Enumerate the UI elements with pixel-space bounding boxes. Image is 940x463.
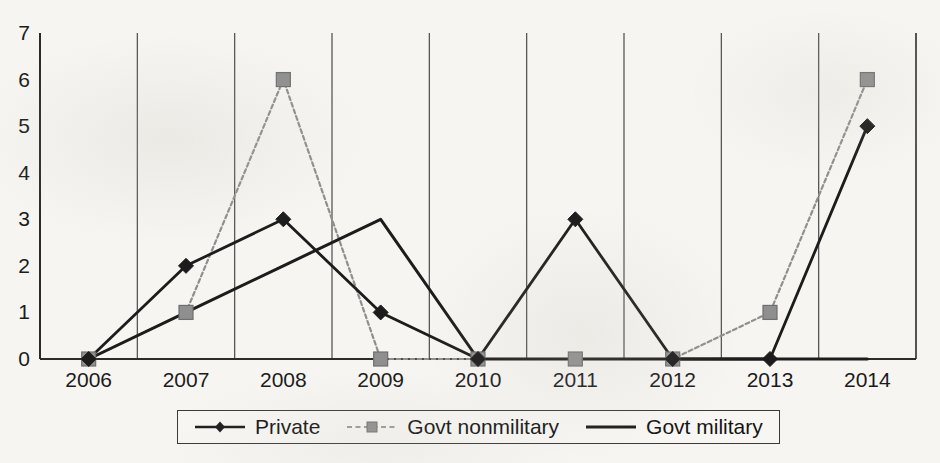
series-line [89, 80, 868, 359]
data-point-marker [276, 73, 290, 87]
y-tick-label: 5 [18, 114, 30, 137]
series-line [89, 126, 868, 359]
line-chart: 01234567 2006200720082009201020112012201… [0, 0, 940, 463]
data-point-marker [763, 352, 778, 367]
legend-label-govt-nonmilitary: Govt nonmilitary [407, 416, 559, 437]
series-line [89, 219, 868, 359]
y-tick-label: 6 [18, 68, 30, 91]
data-point-marker [860, 73, 874, 87]
legend-item-private: Private [194, 416, 320, 437]
data-point-marker [179, 305, 193, 319]
y-tick-label: 0 [18, 347, 30, 370]
x-tick-label: 2006 [65, 368, 112, 391]
axes-group [40, 33, 916, 359]
x-tick-label: 2014 [844, 368, 891, 391]
x-tick-label: 2012 [649, 368, 696, 391]
legend-swatch-private-icon [194, 419, 246, 435]
x-tick-label: 2009 [357, 368, 404, 391]
legend-label-govt-military: Govt military [646, 416, 763, 437]
y-tick-label: 1 [18, 300, 30, 323]
legend-label-private: Private [255, 416, 320, 437]
legend-swatch-govt-nonmilitary-icon [346, 419, 398, 435]
data-point-marker [374, 352, 388, 366]
data-point-marker [763, 305, 777, 319]
y-tick-label: 7 [18, 21, 30, 44]
x-tick-label: 2011 [553, 368, 598, 391]
gridlines-group [137, 33, 818, 359]
x-tick-label: 2013 [747, 368, 794, 391]
series-lines-group [89, 80, 868, 359]
y-tick-label: 2 [18, 254, 30, 277]
y-axis-tick-labels: 01234567 [18, 21, 30, 370]
x-tick-label: 2008 [260, 368, 307, 391]
legend-item-govt-military: Govt military [585, 416, 763, 437]
x-axis-tick-labels: 200620072008200920102011201220132014 [65, 368, 891, 391]
legend-item-govt-nonmilitary: Govt nonmilitary [346, 416, 559, 437]
x-tick-label: 2007 [163, 368, 210, 391]
x-tick-label: 2010 [455, 368, 502, 391]
chart-page: 01234567 2006200720082009201020112012201… [0, 0, 940, 463]
series-markers-group [81, 73, 875, 367]
data-point-marker [860, 119, 875, 134]
legend-swatch-govt-military-icon [585, 419, 637, 435]
y-tick-label: 4 [18, 161, 30, 184]
y-tick-label: 3 [18, 207, 30, 230]
chart-legend: Private Govt nonmilitary Govt military [177, 410, 780, 444]
data-point-marker [568, 352, 582, 366]
